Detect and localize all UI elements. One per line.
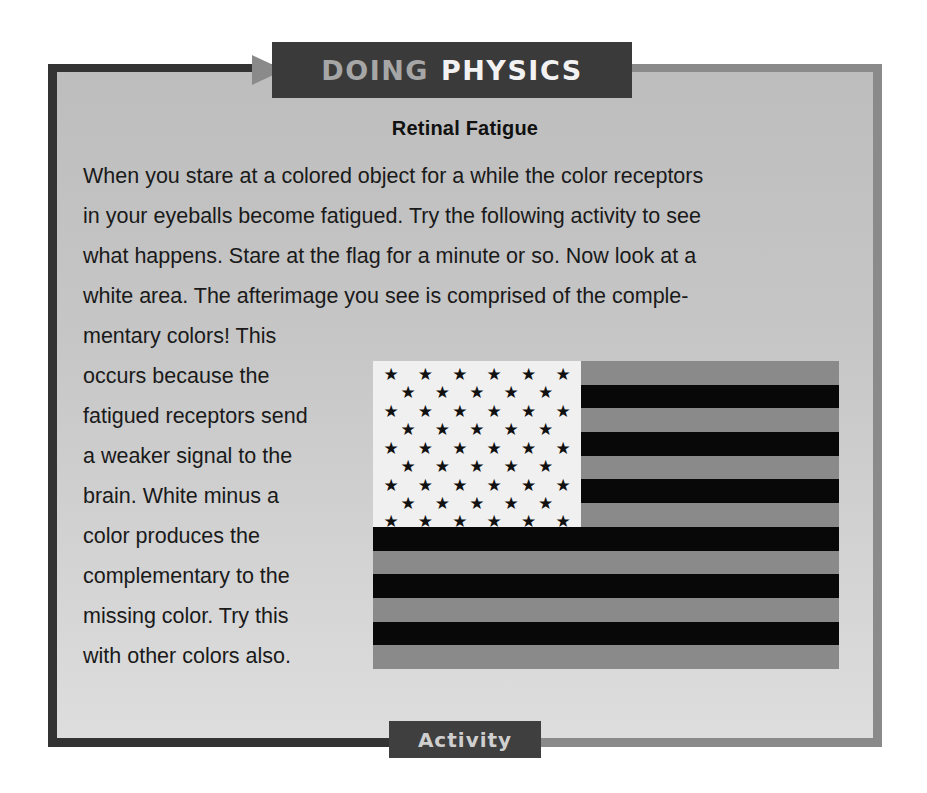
star-icon: ★ (434, 495, 450, 511)
star-icon: ★ (538, 384, 554, 400)
flag-stripe (373, 551, 839, 575)
activity-tab-label: Activity (389, 721, 541, 758)
star-icon: ★ (417, 477, 433, 493)
side-paragraph: occurs because the fatigued receptors se… (83, 356, 373, 676)
body-line: white area. The afterimage you see is co… (83, 276, 863, 316)
star-icon: ★ (400, 384, 416, 400)
frame-border-right (873, 64, 882, 747)
star-icon: ★ (434, 384, 450, 400)
star-icon: ★ (555, 403, 571, 419)
side-line: a weaker signal to the (83, 436, 373, 476)
frame-border-bottom-right (538, 738, 882, 747)
star-icon: ★ (503, 421, 519, 437)
star-icon: ★ (521, 403, 537, 419)
star-icon: ★ (469, 421, 485, 437)
star-icon: ★ (383, 513, 399, 529)
star-icon: ★ (400, 495, 416, 511)
star-icon: ★ (434, 421, 450, 437)
side-line: occurs because the (83, 356, 373, 396)
star-icon: ★ (469, 495, 485, 511)
flag-stripe (373, 645, 839, 669)
activity-label: Activity (418, 728, 512, 752)
star-icon: ★ (503, 458, 519, 474)
star-icon: ★ (538, 495, 554, 511)
star-icon: ★ (555, 513, 571, 529)
star-icon: ★ (434, 458, 450, 474)
star-icon: ★ (538, 421, 554, 437)
star-icon: ★ (555, 440, 571, 456)
star-icon: ★ (452, 366, 468, 382)
star-icon: ★ (469, 458, 485, 474)
side-line: fatigued receptors send (83, 396, 373, 436)
star-icon: ★ (452, 403, 468, 419)
body-line: mentary colors! This (83, 316, 863, 356)
star-icon: ★ (486, 440, 502, 456)
flag-canton: ★★★★★★★★★★★★★★★★★★★★★★★★★★★★★★★★★★★★★★★★… (373, 361, 581, 527)
star-icon: ★ (452, 440, 468, 456)
side-line: brain. White minus a (83, 476, 373, 516)
frame-border-left (48, 64, 57, 747)
frame-border-top-right (632, 64, 882, 72)
star-icon: ★ (538, 458, 554, 474)
star-icon: ★ (400, 421, 416, 437)
star-icon: ★ (521, 440, 537, 456)
star-icon: ★ (486, 513, 502, 529)
flag-stripe (373, 574, 839, 598)
flag-stripe (373, 598, 839, 622)
star-icon: ★ (486, 366, 502, 382)
star-icon: ★ (452, 477, 468, 493)
body-line: what happens. Stare at the flag for a mi… (83, 236, 863, 276)
frame-border-bottom-left (48, 738, 393, 747)
frame-border-top-left (48, 64, 278, 72)
star-icon: ★ (417, 440, 433, 456)
activity-title: Retinal Fatigue (48, 117, 882, 140)
star-icon: ★ (503, 495, 519, 511)
star-icon: ★ (417, 403, 433, 419)
flag-stripe (373, 622, 839, 646)
side-line: with other colors also. (83, 636, 373, 676)
star-icon: ★ (486, 477, 502, 493)
star-icon: ★ (417, 513, 433, 529)
side-line: complementary to the (83, 556, 373, 596)
star-icon: ★ (383, 440, 399, 456)
flag-figure: ★★★★★★★★★★★★★★★★★★★★★★★★★★★★★★★★★★★★★★★★… (373, 361, 839, 669)
star-icon: ★ (400, 458, 416, 474)
star-icon: ★ (417, 366, 433, 382)
header-label-physics: PHYSICS (441, 55, 583, 86)
header-label-doing: DOING (321, 55, 429, 86)
flag-stripe (373, 527, 839, 551)
body-line: When you stare at a colored object for a… (83, 156, 863, 196)
star-icon: ★ (555, 366, 571, 382)
star-icon: ★ (383, 366, 399, 382)
section-header-badge: DOING PHYSICS (272, 42, 632, 98)
side-line: color produces the (83, 516, 373, 556)
star-icon: ★ (555, 477, 571, 493)
star-icon: ★ (383, 477, 399, 493)
star-icon: ★ (521, 366, 537, 382)
star-icon: ★ (486, 403, 502, 419)
body-paragraph: When you stare at a colored object for a… (83, 156, 863, 356)
star-icon: ★ (503, 384, 519, 400)
star-icon: ★ (452, 513, 468, 529)
star-icon: ★ (469, 384, 485, 400)
star-icon: ★ (521, 477, 537, 493)
star-icon: ★ (383, 403, 399, 419)
star-icon: ★ (521, 513, 537, 529)
side-line: missing color. Try this (83, 596, 373, 636)
body-line: in your eyeballs become fatigued. Try th… (83, 196, 863, 236)
